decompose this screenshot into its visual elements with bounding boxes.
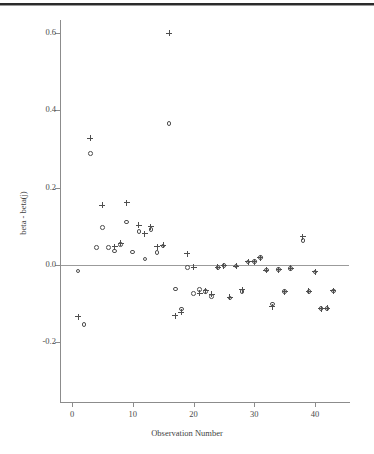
data-point-circle xyxy=(228,296,233,301)
data-point-plus xyxy=(112,244,118,250)
data-point-circle xyxy=(252,259,257,264)
data-point-circle xyxy=(313,270,318,275)
data-point-circle xyxy=(270,302,275,307)
y-axis-tick-label: 0.0 xyxy=(45,260,56,269)
data-point-plus xyxy=(239,287,245,293)
data-point-plus xyxy=(154,244,160,250)
data-point-plus xyxy=(306,288,312,294)
x-axis-tick-label: 20 xyxy=(179,410,209,419)
data-point-circle xyxy=(264,268,269,273)
y-axis-tick-label: -0.2 xyxy=(43,337,56,346)
data-point-plus xyxy=(282,289,288,295)
data-point-plus xyxy=(288,265,294,271)
data-point-circle xyxy=(82,322,87,327)
data-point-plus xyxy=(257,255,263,261)
data-point-plus xyxy=(184,251,190,257)
data-point-circle xyxy=(167,121,172,126)
data-point-plus xyxy=(203,288,209,294)
zero-reference-line xyxy=(61,265,349,266)
data-point-plus xyxy=(251,259,257,265)
data-point-circle xyxy=(282,289,287,294)
data-point-plus xyxy=(324,305,330,311)
data-point-plus xyxy=(227,294,233,300)
data-point-circle xyxy=(100,225,105,230)
y-axis-tick-label: 0.4 xyxy=(45,105,56,114)
data-point-circle xyxy=(240,289,245,294)
data-point-circle xyxy=(137,229,142,234)
data-point-circle xyxy=(173,287,178,292)
x-axis-tick xyxy=(72,402,73,407)
data-point-circle xyxy=(246,260,251,265)
x-axis-tick xyxy=(194,402,195,407)
data-point-circle xyxy=(179,307,184,312)
data-point-plus xyxy=(166,30,172,36)
data-point-circle xyxy=(94,245,99,250)
data-point-plus xyxy=(99,202,105,208)
y-axis-line xyxy=(60,20,61,402)
data-point-circle xyxy=(76,269,81,274)
scatter-plot-figure: -0.20.00.20.40.6010203040 beta - beta(j)… xyxy=(0,0,374,454)
data-point-plus xyxy=(209,291,215,297)
data-point-circle xyxy=(307,289,312,294)
x-axis-tick-label: 0 xyxy=(57,410,87,419)
data-point-plus xyxy=(300,234,306,240)
data-point-plus xyxy=(118,240,124,246)
data-point-plus xyxy=(172,313,178,319)
data-point-circle xyxy=(319,306,324,311)
data-point-plus xyxy=(263,267,269,273)
data-point-plus xyxy=(136,222,142,228)
data-point-circle xyxy=(288,266,293,271)
data-point-circle xyxy=(143,257,148,262)
data-point-plus xyxy=(318,306,324,312)
data-point-plus xyxy=(269,304,275,310)
y-axis-tick-label: 0.2 xyxy=(45,183,56,192)
data-point-plus xyxy=(245,259,251,265)
data-point-circle xyxy=(301,238,306,243)
data-point-plus xyxy=(87,135,93,141)
x-axis-tick xyxy=(254,402,255,407)
data-point-circle xyxy=(130,250,135,255)
data-point-circle xyxy=(106,245,111,250)
data-point-plus xyxy=(197,290,203,296)
x-axis-title: Observation Number xyxy=(0,428,374,438)
y-axis-title: beta - beta(j) xyxy=(18,173,28,253)
x-axis-tick-label: 10 xyxy=(118,410,148,419)
data-point-circle xyxy=(88,151,93,156)
data-point-plus xyxy=(148,224,154,230)
data-point-circle xyxy=(155,250,160,255)
plot-area: -0.20.00.20.40.6010203040 beta - beta(j)… xyxy=(0,0,374,454)
data-point-circle xyxy=(112,249,117,254)
x-axis-tick xyxy=(315,402,316,407)
data-point-circle xyxy=(276,267,281,272)
data-point-circle xyxy=(124,220,129,225)
data-point-circle xyxy=(203,289,208,294)
x-axis-line xyxy=(60,402,350,403)
data-point-plus xyxy=(75,314,81,320)
data-point-plus xyxy=(330,288,336,294)
data-point-circle xyxy=(149,227,154,232)
x-axis-tick-label: 30 xyxy=(239,410,269,419)
x-axis-tick xyxy=(133,402,134,407)
data-point-plus xyxy=(142,231,148,237)
data-point-plus xyxy=(276,267,282,273)
data-point-circle xyxy=(258,255,263,260)
data-point-plus xyxy=(178,309,184,315)
data-point-circle xyxy=(325,306,330,311)
data-point-circle xyxy=(331,289,336,294)
data-point-circle xyxy=(191,291,196,296)
data-point-plus xyxy=(124,200,130,206)
data-point-plus xyxy=(312,269,318,275)
y-axis-tick-label: 0.6 xyxy=(45,28,56,37)
data-point-circle xyxy=(161,244,166,249)
data-point-circle xyxy=(197,287,202,292)
data-point-circle xyxy=(209,294,214,299)
data-point-plus xyxy=(160,242,166,248)
x-axis-tick-label: 40 xyxy=(300,410,330,419)
data-point-circle xyxy=(118,242,123,247)
